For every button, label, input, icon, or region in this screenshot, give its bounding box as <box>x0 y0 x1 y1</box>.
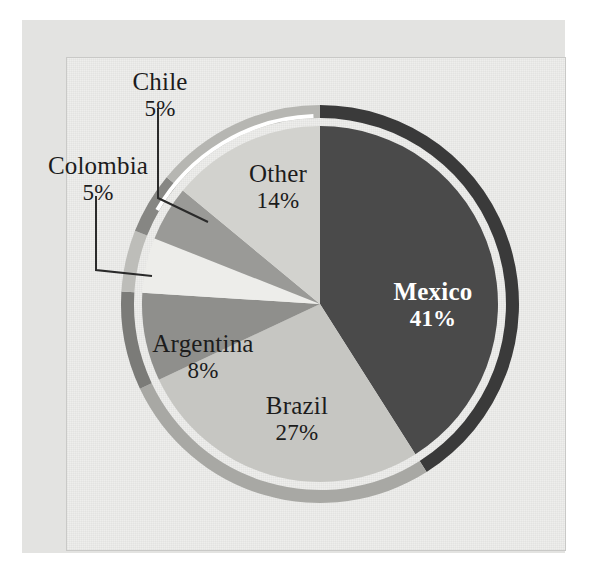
slice-label-colombia-name: Colombia <box>28 152 168 180</box>
slice-label-mexico-name: Mexico <box>368 278 498 306</box>
slice-label-colombia: Colombia 5% <box>28 152 168 206</box>
slice-label-chile-pct: 5% <box>100 96 220 122</box>
slice-label-brazil-pct: 27% <box>232 420 362 446</box>
slice-label-chile: Chile 5% <box>100 68 220 122</box>
pie-svg <box>0 0 592 583</box>
pie-chart-figure: Mexico 41% Brazil 27% Argentina 8% Other… <box>0 0 592 583</box>
slice-label-brazil-name: Brazil <box>232 392 362 420</box>
pie-rim-colombia <box>121 231 147 293</box>
slice-label-other-pct: 14% <box>218 188 338 214</box>
slice-label-colombia-pct: 5% <box>28 180 168 206</box>
slice-label-argentina-pct: 8% <box>128 358 278 384</box>
slice-label-chile-name: Chile <box>100 68 220 96</box>
slice-label-argentina-name: Argentina <box>128 330 278 358</box>
slice-label-argentina: Argentina 8% <box>128 330 278 384</box>
slice-label-other: Other 14% <box>218 160 338 214</box>
slice-label-mexico: Mexico 41% <box>368 278 498 332</box>
slice-label-brazil: Brazil 27% <box>232 392 362 446</box>
slice-label-other-name: Other <box>218 160 338 188</box>
slice-label-mexico-pct: 41% <box>368 306 498 332</box>
